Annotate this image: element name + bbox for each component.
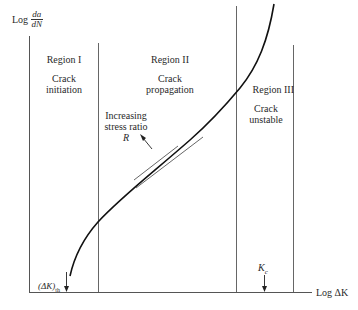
region-2-title: Region II bbox=[145, 54, 195, 66]
threshold-label-sub: th bbox=[55, 287, 60, 293]
fatigue-crack-growth-diagram bbox=[0, 0, 358, 310]
crack-growth-curve bbox=[70, 4, 274, 276]
threshold-arrow-head-icon bbox=[64, 286, 69, 292]
kc-arrow-head-icon bbox=[262, 286, 267, 292]
region-1-line2: initiation bbox=[42, 84, 86, 96]
y-axis-fraction: da dN bbox=[31, 10, 44, 29]
threshold-label: (ΔK)th bbox=[38, 280, 60, 296]
stress-ratio-line-2 bbox=[134, 146, 178, 180]
threshold-label-main: (ΔK) bbox=[38, 281, 55, 291]
kc-label: Kc bbox=[258, 262, 268, 278]
y-axis-label-prefix: Log bbox=[12, 14, 28, 25]
kc-label-sub: c bbox=[265, 268, 268, 276]
stress-ratio-line-1 bbox=[136, 137, 203, 188]
annotation-symbol: R bbox=[118, 132, 134, 144]
region-3-title: Region III bbox=[238, 84, 294, 96]
y-axis-denominator: dN bbox=[31, 20, 44, 29]
x-axis-label: Log ΔK bbox=[316, 287, 348, 299]
region-3-line2: unstable bbox=[243, 114, 289, 126]
kc-label-main: K bbox=[258, 262, 265, 273]
region-1-title: Region I bbox=[42, 54, 86, 66]
y-axis-label: Log da dN bbox=[12, 10, 43, 29]
region-2-line2: propagation bbox=[140, 84, 200, 96]
